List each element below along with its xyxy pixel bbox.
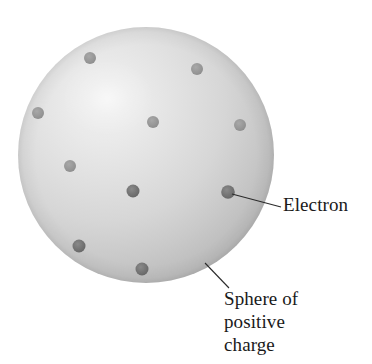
sphere-of-positive-charge: [18, 27, 274, 283]
electron-dot: [136, 263, 149, 276]
sphere-label-line-3: charge: [224, 333, 298, 356]
sphere-of-positive-charge-label: Sphere of positive charge: [224, 287, 298, 356]
electron-dot: [234, 119, 246, 131]
electron-dot: [191, 63, 203, 75]
figure-canvas: Electron Sphere of positive charge: [0, 0, 372, 364]
electron-dot: [64, 160, 76, 172]
electron-dot: [127, 185, 140, 198]
electron-dot: [73, 240, 86, 253]
electron-dot: [32, 107, 44, 119]
sphere-rim-shading: [18, 27, 274, 283]
sphere-leader-line: [205, 263, 229, 288]
electron-dot: [147, 116, 159, 128]
sphere-label-line-1: Sphere of: [224, 287, 298, 310]
electron-dot: [84, 52, 96, 64]
electron-dot-labeled: [221, 185, 235, 199]
plum-pudding-diagram: [0, 0, 372, 364]
sphere-label-line-2: positive: [224, 310, 298, 333]
electron-label: Electron: [283, 193, 348, 216]
